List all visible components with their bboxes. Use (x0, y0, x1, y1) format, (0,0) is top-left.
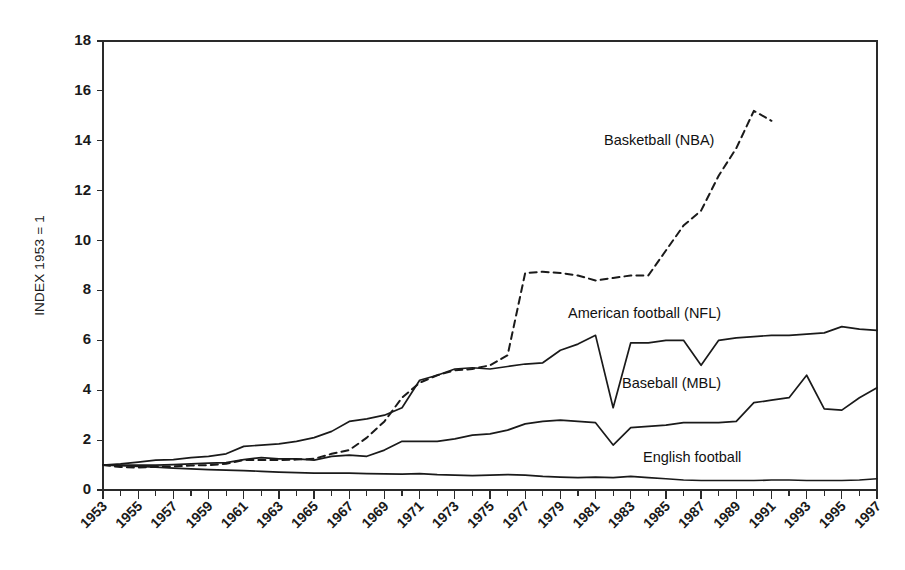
annotation-american-football-nfl: American football (NFL) (568, 305, 721, 321)
y-axis-title-text: INDEX 1953 = 1 (32, 215, 47, 316)
y-tick-label: 16 (74, 81, 91, 98)
y-tick-label: 0 (83, 480, 91, 497)
y-tick-label: 10 (74, 231, 91, 248)
y-tick-label: 8 (83, 280, 91, 297)
annotation-basketball-nba: Basketball (NBA) (604, 132, 714, 148)
y-tick-label: 12 (74, 181, 91, 198)
y-tick-label: 4 (83, 380, 92, 397)
annotation-baseball-mbl: Baseball (MBL) (622, 375, 721, 391)
y-tick-label: 2 (83, 430, 91, 447)
y-tick-label: 18 (74, 31, 91, 48)
chart-figure: 024681012141618 195319551957195919611963… (0, 0, 905, 570)
annotation-english-football: English football (643, 449, 741, 465)
y-tick-label: 6 (83, 330, 91, 347)
y-tick-label: 14 (74, 131, 91, 148)
chart-background (0, 0, 905, 570)
y-axis-title: INDEX 1953 = 1 (32, 215, 47, 316)
sports-revenue-index-line-chart: 024681012141618 195319551957195919611963… (0, 0, 905, 570)
